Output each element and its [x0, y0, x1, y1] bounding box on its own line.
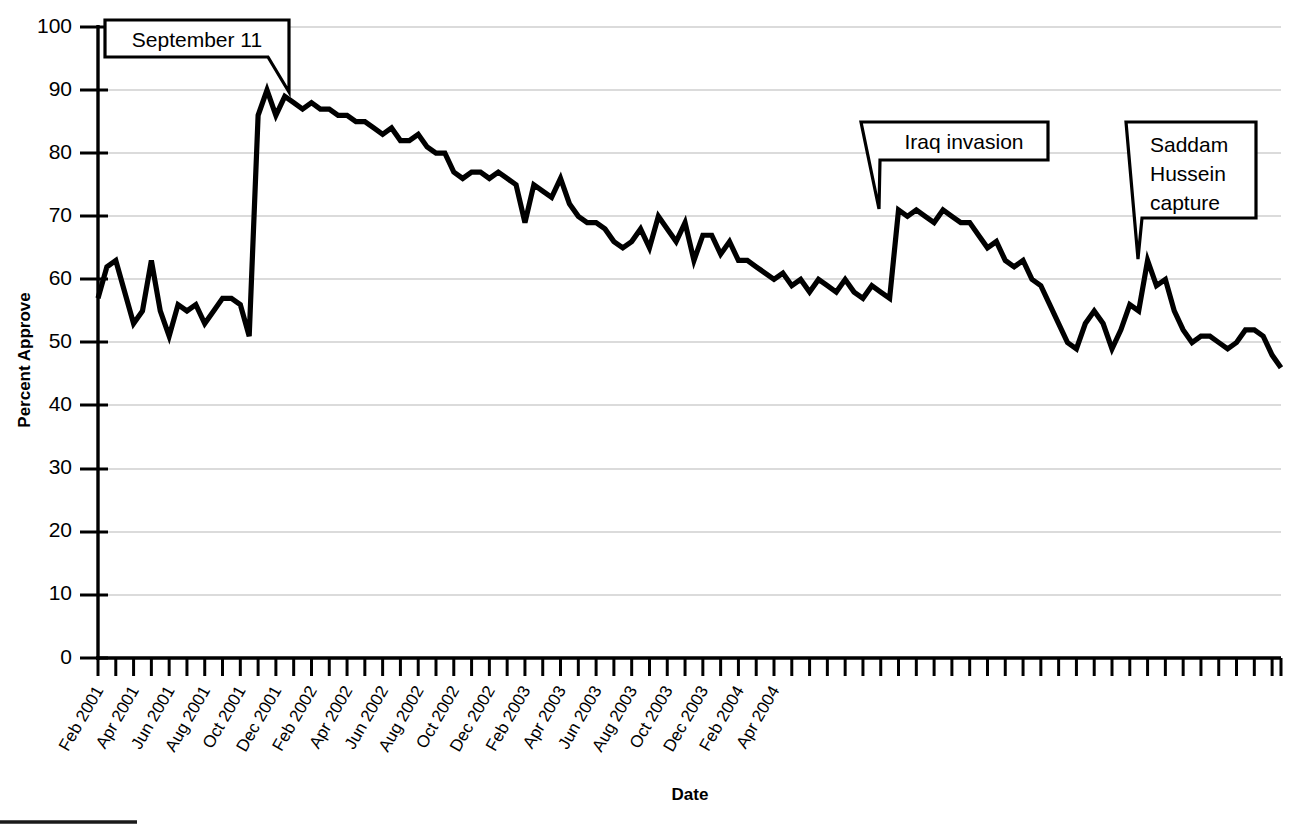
x-ticks [98, 658, 1272, 676]
annotation-september-11: September 11 [105, 20, 289, 92]
y-tick-label: 0 [60, 645, 72, 668]
y-tick-label: 80 [49, 140, 72, 163]
annotation-iraq-invasion-label: Iraq invasion [904, 130, 1023, 153]
y-tick-label: 50 [49, 329, 72, 352]
y-tick-label: 70 [49, 203, 72, 226]
annotation-saddam-line-2: Hussein [1150, 162, 1226, 185]
y-axis-title: Percent Approve [15, 292, 34, 427]
y-tick-label: 40 [49, 392, 72, 415]
chart-page: 0102030405060708090100 Feb 2001Apr 2001J… [0, 0, 1290, 830]
y-tick-labels: 0102030405060708090100 [37, 14, 72, 668]
y-tick-label: 60 [49, 266, 72, 289]
annotation-saddam-hussein-capture: Saddam Hussein capture [1126, 122, 1256, 259]
annotation-saddam-line-1: Saddam [1150, 133, 1228, 156]
y-tick-label: 100 [37, 14, 72, 37]
y-tick-label: 10 [49, 581, 72, 604]
annotation-saddam-line-3: capture [1150, 191, 1220, 214]
axis-lines [96, 25, 1281, 676]
annotation-september-11-label: September 11 [132, 28, 262, 51]
y-ticks [80, 27, 108, 658]
x-tick-labels: Feb 2001Apr 2001Jun 2001Aug 2001Oct 2001… [55, 683, 783, 756]
annotation-iraq-invasion: Iraq invasion [861, 122, 1048, 209]
data-line-presidential-approval [98, 90, 1281, 368]
x-axis-title: Date [672, 785, 709, 804]
y-tick-label: 30 [49, 455, 72, 478]
approval-line-chart: 0102030405060708090100 Feb 2001Apr 2001J… [0, 0, 1290, 830]
y-tick-label: 90 [49, 77, 72, 100]
y-tick-label: 20 [49, 518, 72, 541]
